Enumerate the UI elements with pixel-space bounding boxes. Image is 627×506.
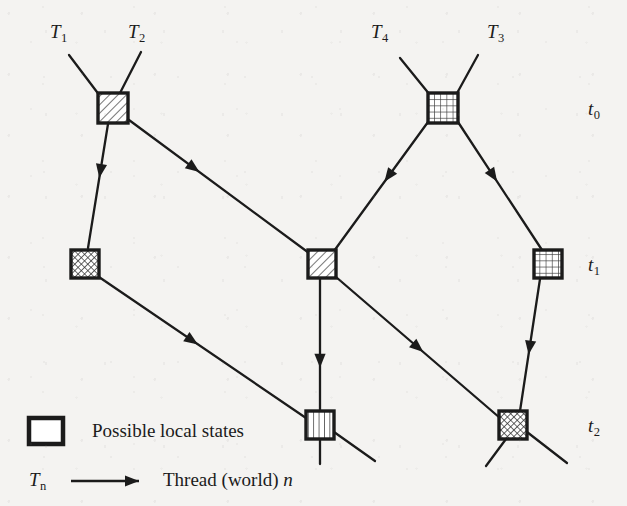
edge [120, 52, 141, 93]
legend-thread-symbol: Tn [29, 470, 46, 492]
legend-state-swatch [29, 418, 63, 444]
edge [88, 124, 108, 248]
edge-line [527, 432, 567, 463]
edge [520, 279, 540, 411]
node-layer [71, 93, 562, 439]
state-node[interactable] [308, 250, 336, 278]
time-label-t0: t0 [588, 99, 600, 121]
edge [400, 58, 430, 95]
thread-label-base: T [128, 21, 139, 42]
state-node[interactable] [428, 93, 458, 123]
legend-thread-symbol-base: T [29, 469, 40, 490]
thread-label-sub: 4 [382, 31, 389, 45]
edge-line [400, 58, 430, 95]
edge-line [120, 52, 141, 93]
time-label-t2: t2 [588, 416, 600, 438]
legend-thread-arrow [71, 475, 139, 486]
edge [69, 55, 100, 96]
legend-thread-text-prefix: Thread (world) [163, 469, 283, 490]
edge [336, 277, 500, 418]
edge-line [69, 55, 100, 96]
edge [527, 432, 567, 463]
thread-label-base: T [487, 21, 498, 42]
edge-arrowhead [183, 332, 198, 345]
edge [486, 439, 506, 466]
time-label-sub: 2 [593, 425, 600, 439]
edge [99, 277, 306, 418]
edge-arrowhead [314, 354, 325, 368]
edge-line [129, 120, 309, 253]
thread-label-sub: 3 [498, 31, 505, 45]
thread-label-sub: 1 [61, 31, 68, 45]
time-label-sub: 0 [593, 108, 600, 122]
edge-arrowhead [96, 163, 107, 178]
state-node[interactable] [306, 411, 334, 439]
thread-label-base: T [371, 21, 382, 42]
edge-line [334, 122, 428, 251]
legend-thread-symbol-sub: n [40, 479, 47, 493]
time-label-sub: 1 [593, 264, 600, 278]
edge-arrowhead [384, 167, 397, 182]
thread-label-T2: T2 [128, 22, 145, 44]
legend-thread-label: Thread (world) n [163, 470, 293, 489]
edge-line [456, 55, 478, 95]
edge [456, 55, 478, 95]
legend-state-label: Possible local states [92, 421, 244, 440]
edge [458, 122, 542, 250]
thread-label-base: T [50, 21, 61, 42]
thread-label-sub: 2 [139, 31, 146, 45]
state-node[interactable] [71, 250, 99, 278]
state-node[interactable] [499, 411, 527, 439]
thread-label-T4: T4 [371, 22, 388, 44]
figure-canvas: T1T2T4T3 t0t1t2 Possible local states Tn… [0, 0, 627, 506]
thread-label-T3: T3 [487, 22, 504, 44]
legend-thread-text-suffix: n [283, 469, 293, 490]
edge [129, 120, 309, 253]
edge-arrowhead [525, 340, 536, 355]
edge-line [458, 122, 542, 250]
edge-line [99, 277, 306, 418]
state-node[interactable] [98, 93, 128, 123]
edge-line [88, 124, 108, 248]
state-node[interactable] [534, 250, 562, 278]
edge-arrowhead [185, 159, 200, 172]
edge-arrowhead [485, 167, 497, 182]
thread-label-T1: T1 [50, 22, 67, 44]
time-label-t1: t1 [588, 255, 600, 277]
edge [334, 122, 428, 251]
edge [334, 432, 375, 461]
edge-line [486, 439, 506, 466]
edge [314, 279, 325, 411]
edge-line [334, 432, 375, 461]
